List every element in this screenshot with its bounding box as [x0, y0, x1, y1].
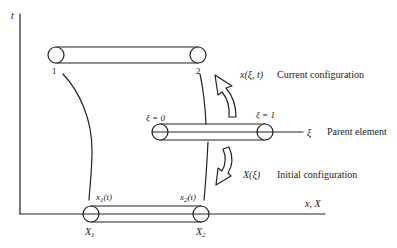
diagram-graphics — [0, 0, 397, 248]
current-mapping-label: x(ξ, t) — [240, 70, 263, 80]
x1-trajectory-label: x1(t) — [96, 192, 112, 202]
trajectory-node-1 — [63, 74, 92, 200]
node-1-label: 1 — [52, 66, 57, 76]
X1-label: X1 — [85, 227, 95, 237]
node-2-circle — [190, 47, 206, 63]
diagram-canvas: t x, X 1 2 x(ξ, t) Current configuration… — [0, 0, 397, 248]
curved-arrow-down-icon — [216, 147, 232, 185]
current-configuration-label: Current configuration — [277, 70, 364, 80]
X2-label: X2 — [196, 227, 206, 237]
trajectory-node-2-lower — [204, 142, 208, 200]
trajectory-node-2-upper — [200, 74, 206, 124]
initial-mapping-label: X(ξ) — [243, 170, 260, 180]
curved-arrow-up-icon — [215, 75, 236, 117]
x2-trajectory-label: x2(t) — [180, 192, 196, 202]
xi-one-label: ξ = 1 — [256, 110, 275, 120]
xi-zero-label: ξ = 0 — [146, 113, 165, 123]
x-axis-label: x, X — [305, 199, 321, 209]
t-axis-label: t — [11, 11, 14, 21]
current-element — [48, 47, 206, 63]
parent-element-label: Parent element — [327, 127, 387, 137]
node-1-circle — [48, 47, 64, 63]
initial-configuration-label: Initial configuration — [277, 170, 357, 180]
parent-element — [152, 124, 303, 140]
xi-axis-label: ξ — [307, 128, 311, 138]
node-2-label: 2 — [196, 66, 201, 76]
